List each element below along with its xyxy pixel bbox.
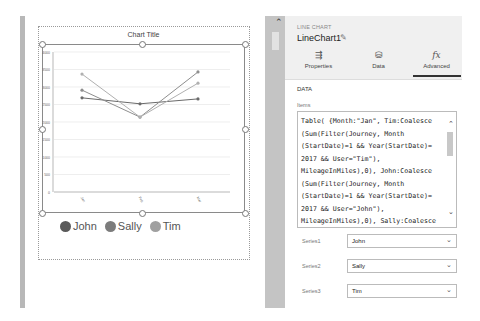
items-label: Items xyxy=(297,102,310,108)
chevron-down-icon: ⌄ xyxy=(446,286,452,294)
legend-swatch xyxy=(150,221,161,232)
formula-scrollbar-thumb[interactable] xyxy=(447,132,453,156)
chart-legend: John Sally Tim xyxy=(60,220,181,232)
panel-header: LINE CHART LineChart1 ✎ ⇶ Properties ⛁ D… xyxy=(285,16,462,80)
tab-properties[interactable]: ⇶ Properties xyxy=(291,50,346,69)
series3-dropdown[interactable]: Tim ⌄ xyxy=(347,284,457,298)
properties-panel: LINE CHART LineChart1 ✎ ⇶ Properties ⛁ D… xyxy=(285,16,462,308)
panel-scrollbar[interactable] xyxy=(265,16,285,308)
data-point-john xyxy=(138,102,141,105)
items-formula-text[interactable]: Table( {Month:"Jan", Tim:Coalesce (Sum(F… xyxy=(301,115,439,228)
tab-label: Properties xyxy=(305,63,332,69)
y-tick-label: 500 xyxy=(44,173,50,177)
data-point-john xyxy=(80,96,83,99)
control-name[interactable]: LineChart1 xyxy=(297,33,341,43)
tab-advanced[interactable]: fx Advanced xyxy=(409,50,464,69)
series3-value: Tim xyxy=(352,288,362,294)
data-point-john xyxy=(196,97,199,100)
y-tick-label: 2000 xyxy=(42,121,50,125)
control-type-label: LINE CHART xyxy=(297,24,332,30)
x-tick-label: Feb xyxy=(138,196,145,203)
series2-label: Series2 xyxy=(302,263,321,269)
series1-row: Series1 John ⌄ xyxy=(297,234,457,250)
section-title-data: DATA xyxy=(297,86,312,92)
data-point-tim xyxy=(196,82,199,85)
series2-value: Sally xyxy=(352,263,365,269)
series-line-tim xyxy=(82,74,198,117)
chevron-up-icon[interactable]: ⌃ xyxy=(448,120,454,128)
series1-label: Series1 xyxy=(302,238,321,244)
y-tick-label: 3500 xyxy=(42,68,50,72)
y-tick-label: 1000 xyxy=(42,156,50,160)
series2-dropdown[interactable]: Sally ⌄ xyxy=(347,259,457,273)
y-tick-label: 3000 xyxy=(42,86,50,90)
tab-label: Data xyxy=(372,63,385,69)
chevron-up-icon[interactable]: ⌃ xyxy=(275,17,283,27)
x-tick-label: Jan xyxy=(80,196,86,203)
y-tick-label: 2500 xyxy=(42,103,50,107)
data-point-tim xyxy=(138,116,141,119)
active-tab-indicator xyxy=(413,75,461,77)
chevron-down-icon[interactable]: ⌄ xyxy=(448,208,454,216)
chevron-down-icon: ⌄ xyxy=(446,261,452,269)
data-point-sally xyxy=(80,89,83,92)
database-icon: ⛁ xyxy=(351,50,406,60)
legend-item-tim: Tim xyxy=(150,220,181,232)
legend-swatch xyxy=(105,221,116,232)
series-line-sally xyxy=(82,72,198,117)
sliders-icon: ⇶ xyxy=(291,50,346,60)
series3-label: Series3 xyxy=(302,288,321,294)
series3-row: Series3 Tim ⌄ xyxy=(297,284,457,300)
data-point-tim xyxy=(80,72,83,75)
y-tick-label: 1500 xyxy=(42,138,50,142)
data-point-sally xyxy=(196,70,199,73)
panel-scrollbar-thumb[interactable] xyxy=(272,32,279,50)
legend-item-sally: Sally xyxy=(105,220,142,232)
y-tick-label: 4000 xyxy=(42,51,50,55)
series1-value: John xyxy=(352,238,365,244)
x-tick-label: Mar xyxy=(196,196,203,204)
items-formula-input[interactable]: Table( {Month:"Jan", Tim:Coalesce (Sum(F… xyxy=(297,111,457,228)
legend-swatch xyxy=(60,221,71,232)
series2-row: Series2 Sally ⌄ xyxy=(297,259,457,275)
pencil-icon[interactable]: ✎ xyxy=(340,33,347,42)
legend-label: Tim xyxy=(163,220,181,232)
series1-dropdown[interactable]: John ⌄ xyxy=(347,234,457,248)
legend-label: Sally xyxy=(118,220,142,232)
fx-icon: fx xyxy=(409,50,464,60)
tab-label: Advanced xyxy=(423,63,450,69)
y-tick-label: 0 xyxy=(48,191,50,195)
legend-item-john: John xyxy=(60,220,97,232)
chevron-down-icon: ⌄ xyxy=(446,236,452,244)
tab-data[interactable]: ⛁ Data xyxy=(351,50,406,69)
legend-label: John xyxy=(73,220,97,232)
